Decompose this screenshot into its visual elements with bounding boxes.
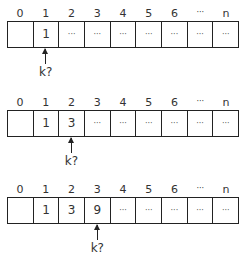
pointer-k: k? (36, 49, 56, 79)
pointer-label: k? (62, 154, 82, 168)
array-diagram-2: 0 1 2 3 4 5 6 ··· n 1 3 ··· ··· ··· ··· … (7, 96, 239, 176)
pointer-label: k? (36, 65, 56, 79)
array-cell: ··· (110, 198, 136, 223)
index-label: 4 (110, 7, 136, 21)
index-label: 2 (59, 7, 85, 21)
array-cell: ··· (187, 198, 213, 223)
array-diagram-3: 0 1 2 3 4 5 6 ··· n 1 3 9 ··· ··· ··· ··… (7, 183, 239, 263)
index-label: n (213, 183, 239, 197)
array-cells: 1 3 ··· ··· ··· ··· ··· ··· (7, 110, 239, 137)
index-label: 2 (59, 96, 85, 110)
array-cell: 1 (33, 198, 59, 223)
index-label: n (213, 7, 239, 21)
array-cells: 1 ··· ··· ··· ··· ··· ··· ··· (7, 21, 239, 48)
array-cell: ··· (212, 22, 238, 47)
array-cell: ··· (135, 22, 161, 47)
index-label: 1 (33, 183, 59, 197)
array-cell: ··· (161, 111, 187, 136)
index-label-ellipsis: ··· (187, 7, 213, 21)
array-cell: ··· (58, 22, 84, 47)
array-cell: 1 (33, 22, 59, 47)
index-row: 0 1 2 3 4 5 6 ··· n (7, 96, 239, 110)
array-cell: ··· (187, 22, 213, 47)
index-label-ellipsis: ··· (187, 183, 213, 197)
index-label: 5 (136, 96, 162, 110)
up-arrow-icon (97, 225, 98, 240)
array-cell: ··· (84, 22, 110, 47)
array-cell: ··· (110, 22, 136, 47)
index-label: 6 (162, 183, 188, 197)
index-label-ellipsis: ··· (187, 96, 213, 110)
array-cell: ··· (135, 111, 161, 136)
up-arrow-icon (71, 138, 72, 153)
array-cell: 3 (58, 111, 84, 136)
index-label: 2 (59, 183, 85, 197)
index-row: 0 1 2 3 4 5 6 ··· n (7, 7, 239, 21)
index-label: 1 (33, 7, 59, 21)
array-cell: ··· (212, 198, 238, 223)
array-diagram-1: 0 1 2 3 4 5 6 ··· n 1 ··· ··· ··· ··· ··… (7, 7, 239, 87)
array-cell (8, 22, 33, 47)
index-label: 0 (7, 7, 33, 21)
array-cell: ··· (110, 111, 136, 136)
index-label: n (213, 96, 239, 110)
index-label: 1 (33, 96, 59, 110)
index-label: 4 (110, 96, 136, 110)
array-cell: 3 (58, 198, 84, 223)
index-label: 3 (84, 7, 110, 21)
pointer-k: k? (87, 225, 107, 255)
index-label: 6 (162, 7, 188, 21)
index-label: 3 (84, 183, 110, 197)
index-label: 5 (136, 183, 162, 197)
index-label: 5 (136, 7, 162, 21)
pointer-k: k? (62, 138, 82, 168)
array-cell: ··· (84, 111, 110, 136)
index-label: 0 (7, 183, 33, 197)
index-label: 0 (7, 96, 33, 110)
pointer-label: k? (87, 241, 107, 255)
array-cell (8, 111, 33, 136)
index-row: 0 1 2 3 4 5 6 ··· n (7, 183, 239, 197)
array-cell: 9 (84, 198, 110, 223)
index-label: 4 (110, 183, 136, 197)
array-cell: ··· (161, 22, 187, 47)
array-cell: ··· (187, 111, 213, 136)
array-cell: ··· (161, 198, 187, 223)
array-cell (8, 198, 33, 223)
array-cell: ··· (135, 198, 161, 223)
index-label: 6 (162, 96, 188, 110)
array-cell: ··· (212, 111, 238, 136)
index-label: 3 (84, 96, 110, 110)
up-arrow-icon (45, 49, 46, 64)
array-cells: 1 3 9 ··· ··· ··· ··· ··· (7, 197, 239, 224)
array-cell: 1 (33, 111, 59, 136)
